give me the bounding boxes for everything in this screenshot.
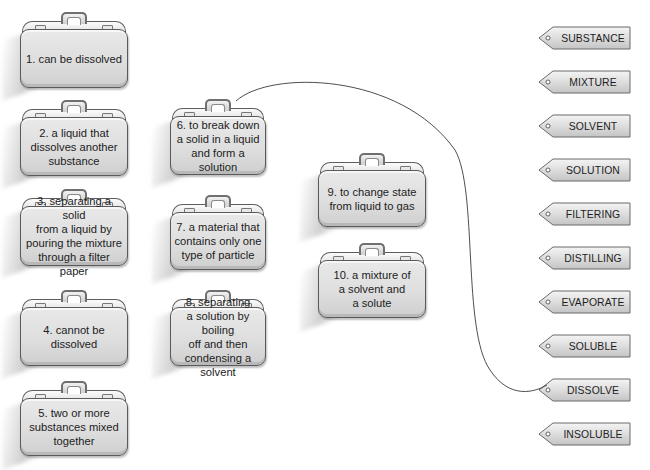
card-body: 6. to break down a solid in a liquid and…	[170, 116, 266, 175]
definition-text: 8. separating a solution by boiling off …	[174, 295, 262, 379]
term-label: DISTILLING	[555, 246, 631, 270]
definition-card-5[interactable]: 5. two or more substances mixed together	[20, 381, 128, 456]
definition-text: 5. two or more substances mixed together	[29, 406, 119, 448]
handle-icon	[359, 243, 385, 255]
term-tag-substance[interactable]: SUBSTANCE	[538, 26, 631, 50]
term-label: SOLUTION	[555, 158, 631, 182]
definition-card-7[interactable]: 7. a material that contains only one typ…	[170, 195, 266, 270]
card-body: 7. a material that contains only one typ…	[170, 212, 266, 270]
handle-icon	[205, 99, 231, 111]
term-label: INSOLUBLE	[555, 422, 631, 446]
definition-card-2[interactable]: 2. a liquid that dissolves another subst…	[20, 100, 128, 176]
term-tag-dissolve[interactable]: DISSOLVE	[538, 378, 631, 402]
handle-icon	[61, 381, 87, 393]
term-tag-insoluble[interactable]: INSOLUBLE	[538, 422, 631, 446]
definition-text: 6. to break down a solid in a liquid and…	[174, 118, 262, 174]
card-body: 5. two or more substances mixed together	[20, 398, 128, 456]
definition-text: 9. to change state from liquid to gas	[328, 185, 417, 213]
term-tag-filtering[interactable]: FILTERING	[538, 202, 631, 226]
term-label: DISSOLVE	[555, 378, 631, 402]
definition-card-1[interactable]: 1. can be dissolved	[20, 12, 128, 88]
term-label: SOLVENT	[555, 114, 631, 138]
definition-text: 10. a mixture of a solvent and a solute	[333, 268, 410, 310]
definition-card-10[interactable]: 10. a mixture of a solvent and a solute	[318, 243, 426, 318]
card-body: 9. to change state from liquid to gas	[318, 170, 426, 227]
term-tag-mixture[interactable]: MIXTURE	[538, 70, 631, 94]
handle-icon	[61, 290, 87, 302]
handle-icon	[359, 153, 385, 165]
definition-text: 4. cannot be dissolved	[43, 323, 105, 351]
definition-card-6[interactable]: 6. to break down a solid in a liquid and…	[170, 99, 266, 175]
term-label: SOLUBLE	[555, 334, 631, 358]
definition-card-3[interactable]: 3. separating a solid from a liquid by p…	[20, 189, 128, 266]
term-label: MIXTURE	[555, 70, 631, 94]
card-body: 1. can be dissolved	[20, 29, 128, 88]
definition-card-4[interactable]: 4. cannot be dissolved	[20, 290, 128, 366]
term-label: FILTERING	[555, 202, 631, 226]
term-tag-solution[interactable]: SOLUTION	[538, 158, 631, 182]
term-tag-evaporate[interactable]: EVAPORATE	[538, 290, 631, 314]
term-label: SUBSTANCE	[555, 26, 631, 50]
term-tag-distilling[interactable]: DISTILLING	[538, 246, 631, 270]
card-body: 4. cannot be dissolved	[20, 307, 128, 366]
term-label: EVAPORATE	[555, 290, 631, 314]
card-body: 3. separating a solid from a liquid by p…	[20, 206, 128, 266]
handle-icon	[61, 12, 87, 24]
definition-text: 2. a liquid that dissolves another subst…	[30, 126, 117, 168]
card-body: 2. a liquid that dissolves another subst…	[20, 117, 128, 176]
definition-text: 3. separating a solid from a liquid by p…	[24, 194, 124, 278]
term-tag-soluble[interactable]: SOLUBLE	[538, 334, 631, 358]
handle-icon	[61, 100, 87, 112]
handle-icon	[205, 195, 231, 207]
card-body: 8. separating a solution by boiling off …	[170, 307, 266, 366]
card-body: 10. a mixture of a solvent and a solute	[318, 260, 426, 318]
definition-card-9[interactable]: 9. to change state from liquid to gas	[318, 153, 426, 227]
definition-text: 1. can be dissolved	[26, 52, 122, 66]
definition-card-8[interactable]: 8. separating a solution by boiling off …	[170, 290, 266, 366]
definition-text: 7. a material that contains only one typ…	[174, 220, 261, 262]
term-tag-solvent[interactable]: SOLVENT	[538, 114, 631, 138]
